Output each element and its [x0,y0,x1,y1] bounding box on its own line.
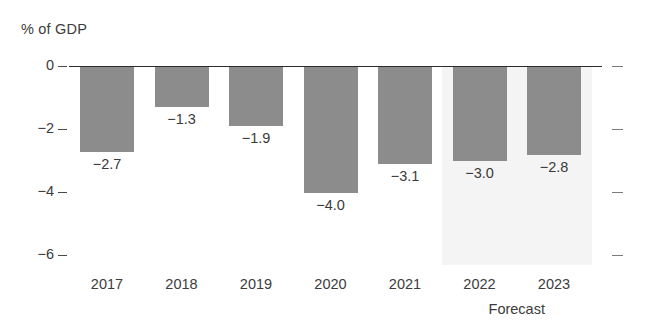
x-axis-label-2018: 2018 [143,276,221,292]
bar-2017 [80,67,134,152]
plot-area: 0−2−4−6 −2.7−1.3−1.9−4.0−3.1−3.0−2.8 201… [0,0,645,333]
y-axis-tick-label: −2 [12,120,54,136]
y-axis-tick-right [612,192,623,194]
y-axis-tick-label: −4 [12,183,54,199]
y-axis-tick-label: −6 [12,246,54,262]
x-axis-label-2021: 2021 [366,276,444,292]
forecast-caption: Forecast [447,301,587,317]
x-axis-label-2019: 2019 [217,276,295,292]
bar-value-label-2018: −1.3 [141,111,223,127]
bar-2020 [304,67,358,193]
y-axis-tick-left [58,129,67,131]
y-axis-tick-right [612,129,623,131]
bar-value-label-2017: −2.7 [66,156,148,172]
bar-value-label-2019: −1.9 [215,130,297,146]
bar-2019 [229,67,283,127]
bar-value-label-2022: −3.0 [439,165,521,181]
bar-value-label-2021: −3.1 [364,168,446,184]
x-axis-label-2023: 2023 [515,276,593,292]
bar-2023 [527,67,581,155]
bar-2018 [155,67,209,108]
bar-2021 [378,67,432,165]
x-axis-label-2017: 2017 [68,276,146,292]
bar-2022 [453,67,507,162]
bar-value-label-2020: −4.0 [290,197,372,213]
y-axis-tick-right [612,66,623,68]
bar-value-label-2023: −2.8 [513,159,595,175]
y-axis-tick-left [58,255,67,257]
x-axis-label-2020: 2020 [292,276,370,292]
y-axis-tick-left [58,66,67,68]
x-axis-label-2022: 2022 [441,276,519,292]
y-axis-tick-left [58,192,67,194]
bar-chart: % of GDP 0−2−4−6 −2.7−1.3−1.9−4.0−3.1−3.… [0,0,645,333]
y-axis-tick-right [612,255,623,257]
y-axis-tick-label: 0 [12,57,54,73]
